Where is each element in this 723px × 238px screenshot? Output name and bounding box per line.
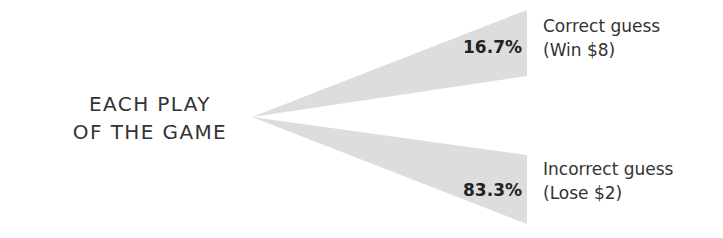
outcome-correct-payoff: (Win $8) [543,38,660,62]
probability-incorrect: 83.3% [432,180,522,200]
outcome-incorrect: Incorrect guess (Lose $2) [543,157,673,205]
outcome-incorrect-label: Incorrect guess [543,157,673,181]
outcome-correct-label: Correct guess [543,14,660,38]
root-label-line1: EACH PLAY [40,90,260,118]
root-node-label: EACH PLAY OF THE GAME [40,90,260,146]
probability-correct: 16.7% [432,37,522,57]
wedge-incorrect-branch [252,117,527,224]
outcome-correct: Correct guess (Win $8) [543,14,660,62]
root-label-line2: OF THE GAME [40,118,260,146]
wedge-correct-branch [252,10,527,117]
outcome-incorrect-payoff: (Lose $2) [543,181,673,205]
